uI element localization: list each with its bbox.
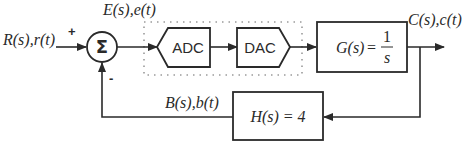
input-signal-label: R(s),r(t) — [2, 31, 55, 49]
dac-label: DAC — [244, 39, 276, 56]
adc-block: ADC — [157, 28, 210, 67]
output-signal-label: C(s),c(t) — [408, 11, 462, 29]
plant-denominator: s — [384, 49, 390, 66]
summing-junction: Σ — [87, 32, 117, 62]
feedback-gain-label: H(s) = 4 — [249, 108, 305, 126]
sigma-icon: Σ — [96, 36, 108, 57]
feedback-signal-label: B(s),b(t) — [165, 94, 219, 112]
feedback-block: H(s) = 4 — [233, 92, 323, 140]
block-diagram: R(s),r(t) + Σ - E(s),e(t) ADC DAC G(s) =… — [0, 0, 474, 145]
plus-sign: + — [68, 24, 76, 39]
dac-block: DAC — [237, 28, 290, 67]
plant-block: G(s) = 1 s — [317, 22, 407, 72]
adc-label: ADC — [172, 39, 204, 56]
minus-sign: - — [109, 71, 113, 86]
plant-lhs: G(s) — [336, 39, 364, 57]
plant-numerator: 1 — [383, 28, 391, 45]
plant-equals: = — [367, 39, 376, 56]
error-signal-label: E(s),e(t) — [102, 1, 156, 19]
